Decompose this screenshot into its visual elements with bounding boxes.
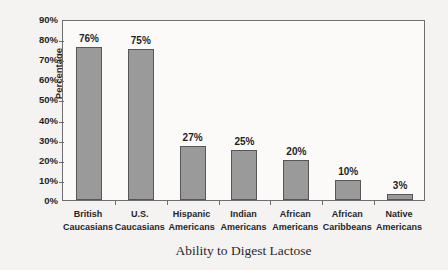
bar <box>231 150 257 200</box>
category-label-line: Caucasians <box>114 221 166 234</box>
bar <box>335 180 361 200</box>
y-axis-tick-label: 40% <box>30 116 58 126</box>
category-label-line: African <box>269 208 321 221</box>
plot-inner: 76%75%27%25%20%10%3% <box>63 21 424 200</box>
category-label-line: African <box>321 208 373 221</box>
bar-value-label: 76% <box>79 34 99 44</box>
category-label-line: British <box>62 208 114 221</box>
x-axis-category-label: AfricanAmericans <box>269 208 321 233</box>
bar <box>76 47 102 200</box>
y-axis-tick-label: 70% <box>30 55 58 65</box>
y-axis-tick-label: 0% <box>30 196 58 206</box>
y-axis-tick-label: 90% <box>30 15 58 25</box>
bar <box>180 146 206 200</box>
bar-slot: 76% <box>63 21 115 200</box>
x-axis-tick-mark <box>167 200 168 205</box>
category-label-line: Indian <box>218 208 270 221</box>
bar-slot: 10% <box>322 21 374 200</box>
bar-slot: 75% <box>115 21 167 200</box>
category-label-line: Americans <box>218 221 270 234</box>
x-axis-tick-mark <box>270 200 271 205</box>
x-axis-tick-mark <box>219 200 220 205</box>
category-label-line: Caribbeans <box>321 221 373 234</box>
y-axis-tick-label: 50% <box>30 96 58 106</box>
x-axis-tick-mark <box>374 200 375 205</box>
x-axis-title: Ability to Digest Lactose <box>62 243 425 259</box>
bar-slot: 3% <box>374 21 426 200</box>
x-axis-category-label: BritishCaucasians <box>62 208 114 233</box>
y-axis-tick-labels: 0%10%20%30%40%50%60%70%80%90% <box>30 0 58 270</box>
x-axis-category-label: U.S.Caucasians <box>114 208 166 233</box>
bar-slot: 25% <box>219 21 271 200</box>
x-axis-category-label: NativeAmericans <box>373 208 425 233</box>
x-axis-category-label: HispanicAmericans <box>166 208 218 233</box>
category-label-line: U.S. <box>114 208 166 221</box>
bar-slot: 27% <box>167 21 219 200</box>
y-axis-tick-label: 30% <box>30 136 58 146</box>
category-label-line: Americans <box>373 221 425 234</box>
x-axis-category-label: IndianAmericans <box>218 208 270 233</box>
category-label-line: Americans <box>269 221 321 234</box>
y-axis-tick-label: 80% <box>30 35 58 45</box>
x-axis-tick-mark <box>322 200 323 205</box>
y-axis-tick-label: 20% <box>30 156 58 166</box>
bar-value-label: 25% <box>234 137 254 147</box>
category-label-line: Caucasians <box>62 221 114 234</box>
y-axis-tick-label: 60% <box>30 76 58 86</box>
y-axis-tick-label: 10% <box>30 176 58 186</box>
bar <box>128 49 154 200</box>
bar-value-label: 3% <box>393 181 407 191</box>
bar-value-label: 10% <box>338 167 358 177</box>
bar-value-label: 27% <box>183 133 203 143</box>
category-label-line: Americans <box>166 221 218 234</box>
category-label-line: Hispanic <box>166 208 218 221</box>
x-axis-category-labels: BritishCaucasiansU.S.CaucasiansHispanicA… <box>62 208 425 244</box>
bar-chart: Percentage 0%10%20%30%40%50%60%70%80%90%… <box>0 0 448 270</box>
bar <box>283 160 309 200</box>
bar-slot: 20% <box>270 21 322 200</box>
bar-value-label: 20% <box>286 147 306 157</box>
bar-value-label: 75% <box>131 36 151 46</box>
category-label-line: Native <box>373 208 425 221</box>
plot-area: 76%75%27%25%20%10%3% <box>62 20 425 201</box>
x-axis-tick-mark <box>115 200 116 205</box>
bar <box>387 194 413 200</box>
x-axis-category-label: AfricanCaribbeans <box>321 208 373 233</box>
